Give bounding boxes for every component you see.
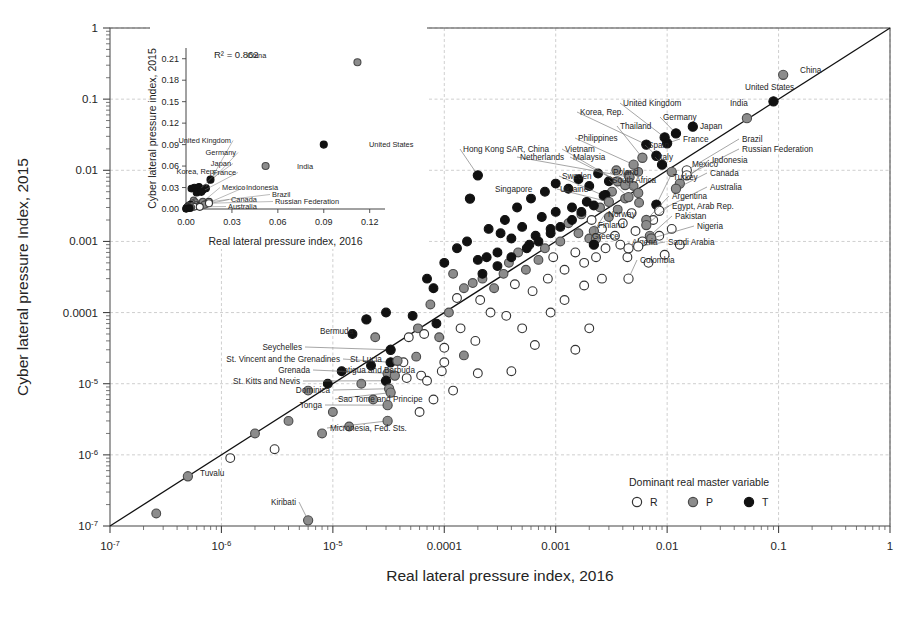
- point-label: Kiribati: [271, 498, 296, 507]
- y-tick-label: 10-5: [78, 376, 98, 390]
- inset-data-point: [187, 205, 194, 212]
- inset-data-point-labeled: [205, 200, 212, 207]
- data-point-P: [635, 198, 644, 207]
- point-label: Korea, Rep.: [580, 108, 624, 117]
- data-point-T: [507, 234, 516, 243]
- point-label: Norway: [608, 210, 637, 219]
- data-point-labeled: [393, 356, 402, 365]
- data-point-R: [580, 258, 589, 267]
- point-label: Philippines: [578, 134, 618, 143]
- inset-y-tick-label: 0.12: [161, 118, 179, 128]
- y-tick-labels: 10-710-610-50.00010.0010.010.11: [63, 22, 99, 532]
- inset-point-label: France: [213, 168, 236, 177]
- inset-point-label: Mexico: [222, 183, 245, 192]
- point-label: Germany: [663, 113, 698, 122]
- data-point-P: [541, 244, 550, 253]
- data-point-T: [534, 237, 543, 246]
- inset-x-tick-label: 0.09: [315, 217, 333, 227]
- data-point-R: [476, 296, 485, 305]
- point-label: Tonga: [300, 401, 323, 410]
- legend-marker-R: [632, 497, 641, 506]
- inset-data-point-labeled: [354, 59, 361, 66]
- point-label: Hong Kong SAR, China: [463, 145, 549, 154]
- data-point-labeled: [688, 122, 697, 131]
- data-point-labeled: [383, 401, 392, 410]
- point-label: Greece: [592, 232, 619, 241]
- x-tick-label: 0.1: [771, 540, 787, 552]
- data-point-R: [546, 308, 555, 317]
- y-tick-label: 0.1: [82, 93, 98, 105]
- point-label: Dominica: [296, 386, 331, 395]
- inset-point-label: United States: [369, 140, 414, 149]
- point-label: Seychelles: [262, 343, 302, 352]
- data-point-labeled: [624, 274, 633, 283]
- data-point-labeled: [624, 192, 633, 201]
- legend-marker-T: [744, 497, 753, 506]
- x-axis-title: Real lateral pressure index, 2016: [386, 567, 613, 584]
- data-point-P: [460, 351, 469, 360]
- data-point-T: [493, 262, 502, 271]
- data-point-T: [546, 229, 555, 238]
- x-tick-label: 0.0001: [427, 540, 462, 552]
- point-label: Finland: [598, 221, 625, 230]
- data-point-P: [444, 308, 453, 317]
- inset-point-label: India: [297, 162, 314, 171]
- point-label: Italy: [658, 153, 674, 162]
- data-point-T: [501, 216, 510, 225]
- point-label: Sao Tome and Principe: [338, 395, 423, 404]
- y-tick-label: 10-6: [78, 447, 98, 461]
- data-point-T: [551, 179, 560, 188]
- point-label: China: [800, 66, 822, 75]
- data-point-P: [426, 300, 435, 309]
- legend-label-R: R: [650, 496, 658, 508]
- data-point-T: [568, 216, 577, 225]
- point-label: Egypt, Arab Rep.: [672, 202, 734, 211]
- point-label: Singapore: [495, 185, 533, 194]
- data-point-T: [493, 248, 502, 257]
- data-point-R: [530, 341, 539, 350]
- y-tick-label: 0.001: [69, 235, 98, 247]
- point-label: Colombia: [640, 256, 675, 265]
- figure-canvas: 10-710-610-50.00010.0010.010.1110-710-61…: [0, 0, 917, 617]
- point-label: Argentina: [672, 192, 707, 201]
- data-point-R: [456, 324, 465, 333]
- data-point-T: [496, 229, 505, 238]
- data-point-labeled: [769, 97, 778, 106]
- inset-point-label: Australia: [228, 202, 258, 211]
- point-label: Tuvalu: [200, 469, 225, 478]
- data-point-R: [598, 274, 607, 283]
- inset-point-label: Germany: [206, 148, 237, 157]
- point-label: Antigua and Barbuda: [338, 366, 415, 375]
- inset-data-point-labeled: [196, 203, 203, 210]
- inset-x-tick-label: 0.00: [177, 217, 195, 227]
- point-label: Pakistan: [675, 212, 707, 221]
- data-point-T: [556, 223, 565, 232]
- data-point-P: [499, 269, 508, 278]
- point-label: Australia: [710, 183, 742, 192]
- data-point-P: [460, 284, 469, 293]
- data-point-T: [527, 194, 536, 203]
- data-point-labeled: [634, 188, 643, 197]
- data-point-P: [534, 255, 543, 264]
- data-point-R: [471, 336, 480, 345]
- data-point-labeled: [386, 345, 395, 354]
- data-point-R: [449, 386, 458, 395]
- data-point-T: [423, 274, 432, 283]
- data-point-T: [568, 203, 577, 212]
- label-leader-line: [333, 389, 389, 390]
- point-label: Saudi Arabia: [668, 238, 715, 247]
- data-point-T: [440, 258, 449, 267]
- inset-x-tick-label: 0.03: [223, 217, 241, 227]
- point-label: Spain: [648, 141, 669, 150]
- data-point-T: [577, 208, 586, 217]
- data-point-T: [463, 237, 472, 246]
- data-point-R: [560, 296, 569, 305]
- data-point-T: [518, 223, 527, 232]
- data-point-R: [415, 408, 424, 417]
- data-point-P: [412, 352, 421, 361]
- data-point-labeled: [604, 197, 613, 206]
- data-point-P: [318, 429, 327, 438]
- data-point-labeled: [634, 242, 643, 251]
- data-point-R: [502, 311, 511, 320]
- data-point-P: [284, 417, 293, 426]
